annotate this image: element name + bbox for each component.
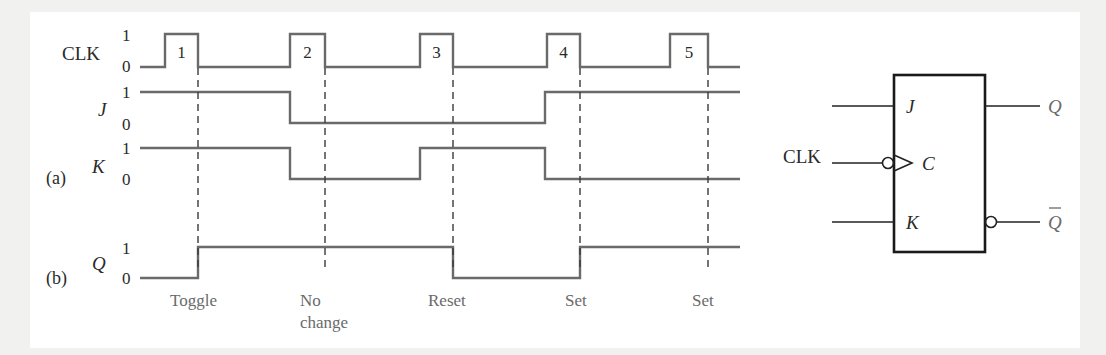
jk-flip-flop-symbol: J C K CLK Q Q: [783, 75, 1062, 252]
timing-diagram: CLK 1 0 1 2 3 4 5 J 1 0 K 1 0 (a) Q 1 0 …: [0, 0, 1106, 355]
q-waveform: [140, 247, 740, 278]
ff-c-pin-label: C: [922, 153, 935, 174]
trigger-action-4: Set: [565, 291, 587, 310]
j-waveform: [140, 92, 740, 123]
trigger-action-2: No: [300, 291, 321, 310]
pulse-number-1: 1: [177, 43, 186, 62]
clk-signal-label: CLK: [62, 43, 100, 64]
clk-level-low: 0: [122, 57, 131, 76]
pulse-number-3: 3: [432, 43, 441, 62]
q-level-low: 0: [122, 269, 131, 288]
ff-k-pin-label: K: [905, 212, 920, 233]
q-level-high: 1: [122, 239, 131, 258]
trigger-markers: Toggle No change Reset Set Set: [170, 68, 714, 332]
part-b-label: (b): [46, 268, 67, 289]
clock-inversion-bubble-icon: [883, 158, 894, 169]
q-bar-inversion-bubble-icon: [986, 217, 997, 228]
trigger-action-5: Set: [692, 291, 714, 310]
trigger-action-3: Reset: [428, 291, 466, 310]
part-a-label: (a): [46, 168, 66, 189]
clk-pulse-numbers: 1 2 3 4 5: [177, 43, 693, 62]
k-level-high: 1: [122, 139, 131, 158]
ff-q-output-label: Q: [1048, 96, 1062, 117]
pulse-number-5: 5: [685, 43, 694, 62]
pulse-number-2: 2: [303, 43, 312, 62]
k-waveform: [140, 148, 740, 179]
trigger-action-2-line2: change: [300, 313, 348, 332]
pulse-number-4: 4: [559, 43, 568, 62]
clk-level-high: 1: [122, 26, 131, 45]
k-signal-label: K: [91, 156, 106, 177]
ff-q-bar-output-label: Q: [1048, 212, 1062, 233]
ff-clk-input-label: CLK: [783, 146, 821, 167]
trigger-action-1: Toggle: [170, 291, 217, 310]
j-level-low: 0: [122, 115, 131, 134]
k-level-low: 0: [122, 170, 131, 189]
j-signal-label: J: [98, 99, 108, 120]
j-level-high: 1: [122, 83, 131, 102]
q-signal-label: Q: [92, 253, 106, 274]
